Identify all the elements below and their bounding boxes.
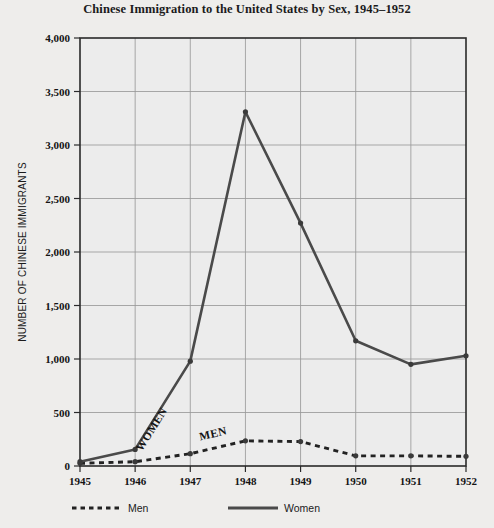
x-tick-label: 1951 bbox=[400, 475, 422, 487]
immigration-line-chart: Chinese Immigration to the United States… bbox=[0, 0, 494, 528]
x-tick-label: 1948 bbox=[234, 475, 257, 487]
data-point bbox=[188, 451, 193, 456]
x-tick-label: 1949 bbox=[290, 475, 313, 487]
data-point bbox=[408, 453, 413, 458]
x-tick-label: 1947 bbox=[179, 475, 202, 487]
data-point bbox=[353, 453, 358, 458]
data-point bbox=[77, 459, 82, 464]
data-point bbox=[188, 359, 193, 364]
y-tick-label: 3,000 bbox=[45, 139, 70, 151]
data-point bbox=[243, 438, 248, 443]
data-point bbox=[133, 459, 138, 464]
data-point bbox=[463, 454, 468, 459]
y-tick-label: 500 bbox=[54, 407, 71, 419]
legend-label-men: Men bbox=[128, 502, 149, 514]
page-title: Chinese Immigration to the United States… bbox=[83, 2, 411, 16]
data-point bbox=[463, 353, 468, 358]
data-point bbox=[353, 338, 358, 343]
data-point bbox=[298, 439, 303, 444]
data-point bbox=[243, 109, 248, 114]
legend-label-women: Women bbox=[284, 502, 320, 514]
x-tick-label: 1952 bbox=[455, 475, 478, 487]
x-tick-label: 1946 bbox=[124, 475, 147, 487]
y-tick-label: 4,000 bbox=[45, 32, 70, 44]
y-tick-label: 1,000 bbox=[45, 353, 70, 365]
y-tick-label: 2,000 bbox=[45, 246, 70, 258]
data-point bbox=[408, 362, 413, 367]
y-tick-label: 1,500 bbox=[45, 300, 70, 312]
x-tick-label: 1950 bbox=[345, 475, 368, 487]
data-point bbox=[298, 221, 303, 226]
y-axis-title: NUMBER OF CHINESE IMMIGRANTS bbox=[17, 162, 28, 342]
x-tick-label: 1945 bbox=[69, 475, 92, 487]
y-tick-label: 2,500 bbox=[45, 193, 70, 205]
y-tick-label: 3,500 bbox=[45, 86, 70, 98]
y-tick-label: 0 bbox=[65, 460, 71, 472]
